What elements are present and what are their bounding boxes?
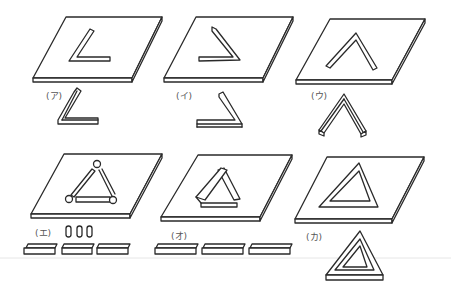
peg-left <box>66 196 73 203</box>
panel-e <box>24 154 162 254</box>
plate-u <box>296 19 425 84</box>
piece-ka-triangle-frame <box>326 231 383 280</box>
panel-i <box>164 17 293 127</box>
peg-top <box>94 161 101 168</box>
bars-e <box>24 244 130 254</box>
label-u: (ウ) <box>311 89 327 102</box>
panel-u <box>296 19 425 137</box>
bars-o <box>155 244 292 254</box>
label-e: (エ) <box>35 226 51 239</box>
pegs-e <box>66 226 92 237</box>
label-a: (ア) <box>46 89 62 102</box>
label-o: (オ) <box>171 229 187 242</box>
plate-o <box>161 155 292 221</box>
piece-i-reversed-l-bar <box>197 92 242 127</box>
plate-ka <box>295 157 424 223</box>
label-ka: (カ) <box>306 230 322 243</box>
label-i: (イ) <box>176 89 192 102</box>
piece-a-l-bar <box>58 88 98 124</box>
panel-ka <box>295 157 424 280</box>
diagram-canvas <box>0 0 451 298</box>
peg-right <box>110 197 117 204</box>
plate-i <box>164 17 293 82</box>
panel-a <box>33 17 162 124</box>
plate-a <box>33 17 162 82</box>
